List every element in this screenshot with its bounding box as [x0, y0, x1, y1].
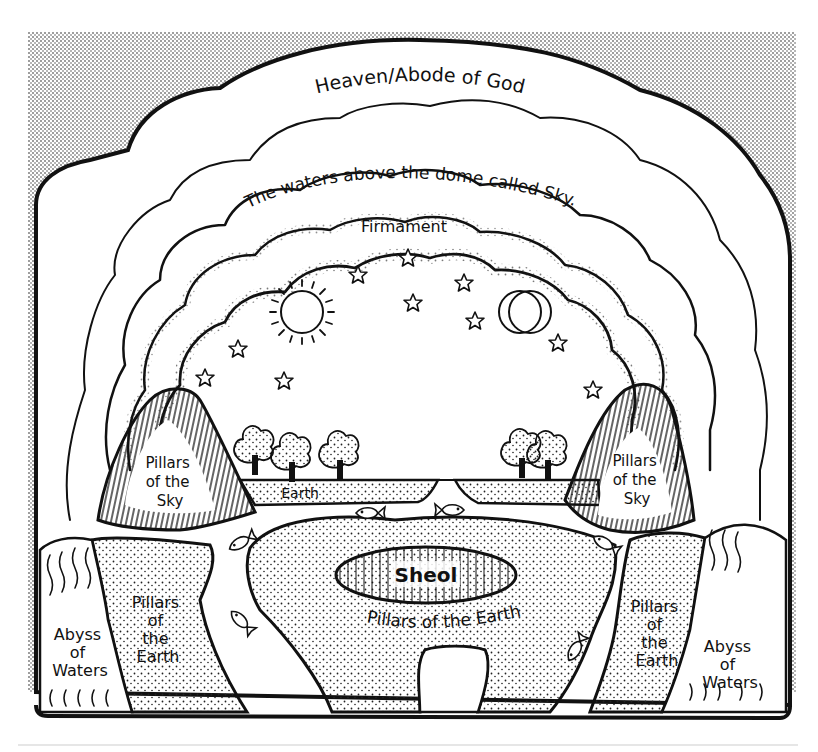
pillar-gap: [419, 646, 488, 712]
page-edge-shadow: [18, 744, 798, 746]
cosmology-diagram: Heaven/Abode of God The waters above the…: [0, 0, 818, 752]
label-firmament: Firmament: [361, 217, 447, 236]
label-sheol: Sheol: [395, 563, 458, 587]
label-earth: Earth: [281, 485, 319, 501]
